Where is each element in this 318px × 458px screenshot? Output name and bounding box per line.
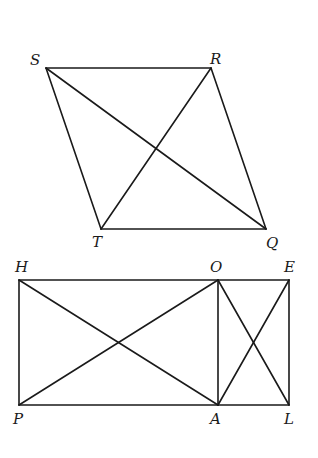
geometry-diagram: S R T Q H O E P A L	[0, 0, 318, 458]
label-t: T	[92, 233, 103, 251]
label-p: P	[12, 410, 24, 428]
label-r: R	[209, 50, 221, 68]
label-e: E	[283, 258, 295, 276]
parallelogram-srqt	[46, 68, 266, 229]
diagonal-rt	[101, 68, 211, 229]
label-s: S	[30, 51, 40, 69]
label-a: A	[208, 410, 221, 428]
rectangle-help	[19, 280, 289, 405]
label-q: Q	[266, 234, 278, 252]
label-l: L	[283, 410, 294, 428]
segment-ts	[46, 68, 101, 229]
label-o: O	[210, 258, 222, 276]
label-h: H	[14, 258, 29, 276]
segment-rq	[211, 68, 266, 229]
